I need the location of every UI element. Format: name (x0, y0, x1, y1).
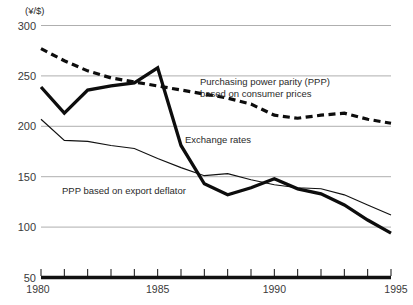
y-tick-label-300: 300 (18, 20, 36, 32)
x-tick-label-1995: 1995 (384, 283, 408, 295)
y-tick-label-250: 250 (18, 70, 36, 82)
chart-container: 30025020015010050 (¥/$) 1980198519901995… (0, 0, 413, 305)
y-axis-unit-label: (¥/$) (25, 5, 45, 16)
annotation-ppp-cpi-label-line-2: based on consumer prices (200, 88, 312, 99)
annotation-ppp-export-label-line-1: PPP based on export deflator (62, 185, 186, 196)
y-tick-label-50: 50 (24, 272, 36, 284)
x-tick-label-1985: 1985 (146, 283, 170, 295)
y-tick-label-100: 100 (18, 221, 36, 233)
y-tick-label-200: 200 (18, 120, 36, 132)
x-tick-label-1980: 1980 (26, 283, 50, 295)
y-axis-tick-labels: 30025020015010050 (18, 20, 36, 284)
annotation-ppp-cpi-label-line-1: Purchasing power parity (PPP) (200, 76, 330, 87)
x-tick-label-1990: 1990 (263, 283, 287, 295)
x-axis-tick-labels: 1980198519901995 (26, 283, 408, 295)
annotation-exchange-rates-label-line-1: Exchange rates (185, 134, 251, 145)
x-axis-group (41, 269, 391, 278)
x-axis-ticks (41, 269, 391, 276)
exchange-rate-ppp-line-chart: 30025020015010050 (¥/$) 1980198519901995… (0, 0, 413, 305)
y-tick-label-150: 150 (18, 171, 36, 183)
gridlines-group (41, 26, 391, 228)
